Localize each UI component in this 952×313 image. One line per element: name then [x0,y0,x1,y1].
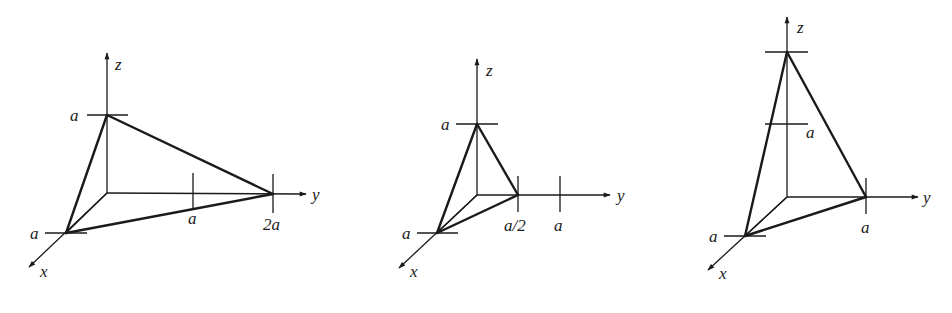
x-axis-label: x [39,262,48,281]
z-tick-label: a [70,106,79,125]
y-tick-label-a: a [554,216,563,235]
diagram-canvas: z y x a a 2a a z y x a a/2 a a [0,0,952,313]
tetrahedron-diagram-3: z y x a a a [708,17,931,283]
y-axis-label: y [615,186,625,205]
y-axis-label: y [310,185,320,204]
y-tick-label-2a: 2a [263,215,280,234]
y-axis-label: y [921,188,931,207]
edge-z-x [745,52,787,236]
x-tick-label: a [709,227,718,246]
x-tick-label: a [402,224,411,243]
tetrahedron-diagram-2: z y x a a/2 a a [399,59,625,281]
y-tick-label: a [861,218,870,237]
x-axis-label: x [718,264,727,283]
y-tick-label-half: a/2 [504,216,526,235]
edge-z-y [107,115,273,194]
z-axis-label: z [796,18,804,37]
tetrahedron-diagram-1: z y x a a 2a a [29,53,320,281]
y-tick-label-a: a [188,209,197,228]
z-axis-label: z [485,61,493,80]
z-axis-label: z [114,55,122,74]
z-tick-label: a [441,115,450,134]
edge-z-y [477,124,518,195]
x-axis-label: x [409,262,418,281]
edge-x-y [66,194,273,233]
z-tick-label: a [806,123,815,142]
edge-z-x [66,115,107,233]
edge-x-y [745,197,866,236]
x-tick-label: a [30,224,39,243]
y-axis [107,193,306,194]
